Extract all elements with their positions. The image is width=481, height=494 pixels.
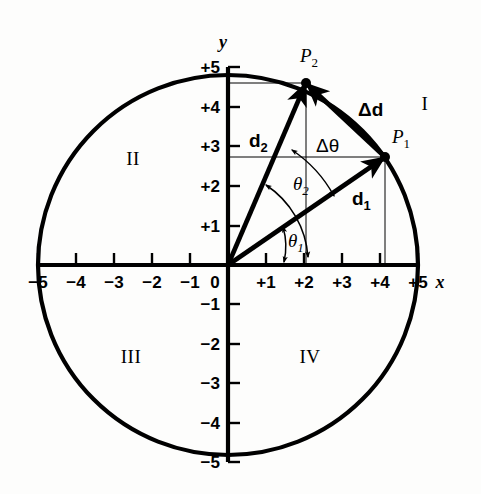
y-tick-label--1: −1 (201, 295, 220, 314)
x-tick-label-2: +2 (294, 273, 313, 292)
vector-label-d1: d1 (352, 188, 371, 213)
x-tick-label-1: +1 (256, 273, 275, 292)
y-tick-label--2: −2 (201, 335, 220, 354)
x-tick-label--1: −1 (180, 273, 199, 292)
figure-root: −5 −4 −3 −2 −1 0 +1 +2 +3 +4 +5 +5 +4 +3… (0, 0, 481, 494)
point-P2-dot (301, 78, 311, 88)
angle-label-delta-theta: Δθ (316, 135, 339, 156)
x-tick-label--3: −3 (104, 273, 123, 292)
vector-label-d1-text: d (352, 188, 364, 209)
x-tick-label--4: −4 (66, 273, 86, 292)
y-tick-label-5: +5 (201, 58, 220, 77)
y-tick-label-3: +3 (201, 137, 220, 156)
point-label-P2: P2 (299, 45, 318, 70)
coordinate-diagram: −5 −4 −3 −2 −1 0 +1 +2 +3 +4 +5 +5 +4 +3… (0, 0, 481, 494)
x-tick-label--5: −5 (28, 273, 47, 292)
origin-label: 0 (210, 273, 219, 292)
point-label-P2-text: P (299, 45, 312, 66)
x-tick-label-4: +4 (370, 273, 390, 292)
theta1-arc (283, 227, 286, 262)
vector-label-d2-subscript: 2 (261, 140, 268, 155)
angle-label-theta2: θ2 (293, 173, 309, 198)
y-tick-label-4: +4 (201, 98, 221, 117)
quadrant-label-I: I (422, 93, 429, 114)
point-label-P1: P1 (391, 126, 410, 151)
angle-label-theta1: θ1 (288, 230, 304, 255)
angle-label-theta1-subscript: 1 (297, 240, 304, 255)
x-axis-label: x (435, 272, 445, 292)
vector-label-delta-d: Δd (358, 99, 383, 120)
angle-label-theta1-text: θ (288, 230, 297, 251)
angle-label-theta2-subscript: 2 (302, 183, 309, 198)
x-tick-label-3: +3 (332, 273, 351, 292)
y-tick-label-1: +1 (201, 217, 220, 236)
quadrant-label-III: III (121, 346, 141, 367)
y-tick-label--5: −5 (201, 453, 220, 472)
point-label-P2-subscript: 2 (312, 55, 319, 70)
quadrant-label-IV: IV (299, 346, 320, 367)
y-tick-label-2: +2 (201, 177, 220, 196)
y-tick-label--3: −3 (201, 374, 220, 393)
y-tick-label--4: −4 (201, 414, 221, 433)
angle-label-theta2-text: θ (293, 173, 302, 194)
point-label-P1-text: P (391, 126, 404, 147)
vector-label-d2: d2 (249, 130, 268, 155)
y-axis-label: y (217, 32, 228, 52)
quadrant-label-II: II (126, 148, 140, 169)
x-tick-label--2: −2 (142, 273, 161, 292)
vector-label-d1-subscript: 1 (364, 198, 371, 213)
point-label-P1-subscript: 1 (404, 136, 411, 151)
vector-label-d2-text: d (249, 130, 261, 151)
point-P1-dot (380, 152, 390, 162)
x-tick-label-5: +5 (408, 273, 427, 292)
